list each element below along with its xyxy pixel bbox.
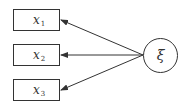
latent-xi: ξ xyxy=(144,39,178,73)
xi-label: ξ xyxy=(157,47,166,63)
indicator-x1: x1 xyxy=(14,10,60,31)
x2-base: x xyxy=(33,48,40,62)
edge-xi-x1 xyxy=(61,20,143,55)
x2-sub: 2 xyxy=(41,55,45,63)
path-diagram: x1 x2 x3 ξ xyxy=(0,0,189,108)
edge-xi-x3 xyxy=(61,55,143,90)
x1-base: x xyxy=(33,13,40,27)
indicator-x3: x3 xyxy=(14,80,60,101)
x3-sub: 3 xyxy=(41,90,45,98)
x3-base: x xyxy=(33,83,40,97)
indicator-x2: x2 xyxy=(14,45,60,66)
x1-sub: 1 xyxy=(41,20,45,28)
